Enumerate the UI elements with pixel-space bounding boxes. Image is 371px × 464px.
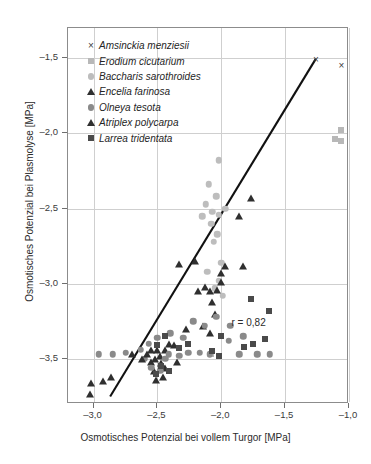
y-axis-tick-label: –2,5: [16, 202, 58, 213]
legend-item-3[interactable]: Baccharis sarothroides: [83, 69, 201, 84]
legend-item-label: Atriplex polycarpa: [99, 117, 178, 128]
data-point: [162, 333, 168, 339]
x-axis-tick-label: –2,5: [136, 409, 176, 420]
data-point: [107, 373, 115, 380]
data-point: [173, 358, 181, 365]
x-axis-tick: [93, 403, 94, 408]
data-point: [191, 258, 199, 265]
data-point: [213, 193, 220, 200]
data-point: [158, 363, 164, 369]
data-point: [199, 213, 206, 220]
scatter-plot-figure: ×× r = 0,82 ×Amsinckia menziesiiErodium …: [0, 0, 371, 464]
data-point: [213, 286, 221, 293]
data-point: [217, 270, 225, 277]
x-axis-tick: [284, 403, 285, 408]
legend-item-2[interactable]: Erodium cicutarium: [83, 53, 201, 68]
legend-item-label: Erodium cicutarium: [99, 56, 185, 67]
y-axis-tick-label: –2,0: [16, 126, 58, 137]
data-point: [208, 298, 216, 305]
data-point: [209, 348, 215, 354]
data-point: [236, 351, 243, 358]
data-point: [109, 351, 116, 358]
y-axis-tick: [62, 208, 67, 209]
legend-item-label: Larrea tridentata: [99, 133, 172, 144]
data-point: [190, 318, 197, 325]
data-point: [206, 330, 214, 337]
data-point: [154, 335, 161, 342]
data-point: [240, 333, 247, 340]
data-point: [215, 157, 222, 164]
triangle-marker-icon: [83, 88, 99, 95]
legend-item-6[interactable]: Atriplex polycarpa: [83, 115, 201, 130]
y-axis-label: Osmotisches Potenzial bei Plasmolyse [MP…: [24, 77, 35, 327]
data-point: [194, 288, 202, 295]
x-axis-label: Osmotisches Potenzial bei vollem Turgor …: [0, 432, 371, 443]
y-axis-tick: [62, 283, 67, 284]
plot-area: ×× r = 0,82 ×Amsinckia menziesiiErodium …: [67, 27, 348, 403]
y-axis-tick-label: –3,5: [16, 352, 58, 363]
legend-item-label: Encelia farinosa: [99, 86, 170, 97]
x-axis-tick-label: –2,0: [200, 409, 240, 420]
triangle-marker-icon: [83, 119, 99, 126]
correlation-annotation: r = 0,82: [232, 317, 266, 328]
x-axis-tick: [220, 403, 221, 408]
data-point: [204, 268, 211, 275]
data-point: [154, 342, 160, 348]
legend-item-1[interactable]: ×Amsinckia menziesii: [83, 38, 201, 53]
data-point: [208, 220, 215, 227]
legend-item-label: Olneya tesota: [99, 102, 161, 113]
data-point: ×: [313, 55, 319, 65]
circle-marker-icon: [83, 104, 99, 111]
data-point: [338, 138, 344, 144]
square-marker-icon: [83, 58, 99, 64]
legend-item-7[interactable]: Larrea tridentata: [83, 130, 201, 145]
data-point: [182, 325, 190, 332]
x-axis-tick-label: –1,5: [264, 409, 304, 420]
data-point: [153, 371, 159, 377]
data-point: [226, 338, 233, 345]
y-axis-tick-label: –3,0: [16, 277, 58, 288]
data-point: [128, 351, 136, 358]
legend-item-label: Amsinckia menziesii: [99, 40, 189, 51]
circle-marker-icon: [83, 73, 99, 80]
data-point: [247, 195, 255, 202]
data-point: [95, 351, 102, 358]
data-point: [267, 351, 274, 358]
data-point: [201, 323, 208, 330]
data-point: [138, 355, 146, 362]
data-point: [166, 368, 172, 374]
data-point: [214, 231, 221, 238]
data-point: [152, 376, 160, 383]
data-point: [87, 379, 95, 386]
data-point: [175, 261, 183, 268]
data-point: [99, 378, 107, 385]
data-point: [176, 353, 183, 360]
y-axis-tick: [62, 358, 67, 359]
x-axis-tick-label: –3,0: [73, 409, 113, 420]
data-point: [219, 292, 226, 299]
data-point: [203, 201, 210, 208]
legend-item-label: Baccharis sarothroides: [99, 71, 201, 82]
x-marker-icon: ×: [83, 41, 99, 51]
data-point: [248, 296, 254, 302]
data-point: [185, 350, 192, 357]
data-point: [196, 350, 203, 357]
data-point: [210, 238, 217, 245]
data-point: [165, 340, 173, 347]
data-point: ×: [338, 61, 344, 71]
data-point: [239, 262, 247, 269]
data-point: [332, 136, 338, 142]
data-point: [205, 181, 212, 188]
data-point: [222, 205, 229, 212]
legend-item-4[interactable]: Encelia farinosa: [83, 84, 201, 99]
legend-item-5[interactable]: Olneya tesota: [83, 100, 201, 115]
data-point: [235, 213, 243, 220]
y-axis-tick-label: –1,5: [16, 51, 58, 62]
data-point: [162, 356, 169, 363]
x-axis-tick: [348, 403, 349, 408]
data-point: [254, 351, 261, 358]
data-point: [122, 350, 129, 357]
data-point: [217, 279, 225, 286]
gridline-vertical: [349, 28, 350, 402]
data-point: [266, 308, 272, 314]
